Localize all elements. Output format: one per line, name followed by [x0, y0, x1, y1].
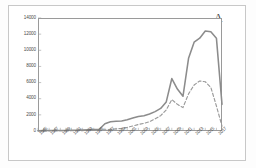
y-tick-label: 4000 [26, 96, 36, 101]
y-axis-tick-labels: 02000400060008000100001200014000 [10, 18, 36, 131]
series-line-humans [38, 31, 222, 131]
series-line-animals [38, 81, 222, 131]
y-tick-label: 12000 [24, 32, 36, 37]
y-tick-label: 6000 [26, 80, 36, 85]
x-axis-tick-labels: 1985198719891991199319951997199920012003… [38, 133, 222, 163]
y-axis-ticks [38, 18, 41, 131]
plot-area [38, 18, 222, 131]
y-tick-label: 0 [34, 129, 36, 134]
y-tick-label: 10000 [24, 48, 36, 53]
y-tick-label: 2000 [26, 113, 36, 118]
y-tick-label: 8000 [26, 64, 36, 69]
y-tick-label: 14000 [24, 16, 36, 21]
figure-container: A Humans Animals 02000400060008000100001… [0, 0, 256, 168]
